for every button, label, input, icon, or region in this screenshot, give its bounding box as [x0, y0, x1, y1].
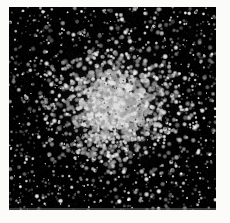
star-field-canvas	[9, 7, 216, 210]
sky-image-field	[9, 7, 216, 210]
image-bottom-edge	[9, 208, 216, 210]
figure-page	[0, 0, 230, 223]
